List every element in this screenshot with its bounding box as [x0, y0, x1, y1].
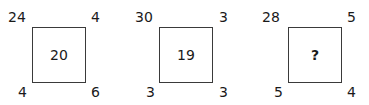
corner-top-left: 30 — [135, 10, 153, 24]
number-square-2: 30 3 19 3 3 — [123, 0, 246, 105]
number-square-3: 28 5 ? 5 4 — [246, 0, 369, 105]
corner-top-left: 28 — [262, 10, 280, 24]
corner-bottom-right: 6 — [91, 85, 100, 99]
number-square-1: 24 4 20 4 6 — [0, 0, 123, 105]
corner-bottom-left: 3 — [146, 85, 155, 99]
corner-top-right: 4 — [91, 10, 100, 24]
center-square: 20 — [32, 27, 86, 83]
corner-top-right: 3 — [219, 10, 228, 24]
corner-top-right: 5 — [347, 10, 356, 24]
center-value: 19 — [177, 47, 195, 63]
center-square: 19 — [159, 27, 213, 83]
corner-top-left: 24 — [8, 10, 26, 24]
corner-bottom-left: 5 — [274, 85, 283, 99]
corner-bottom-right: 3 — [219, 85, 228, 99]
corner-bottom-right: 4 — [347, 85, 356, 99]
center-square: ? — [288, 27, 342, 83]
unknown-value: ? — [311, 47, 319, 63]
center-value: 20 — [50, 47, 68, 63]
corner-bottom-left: 4 — [18, 85, 27, 99]
